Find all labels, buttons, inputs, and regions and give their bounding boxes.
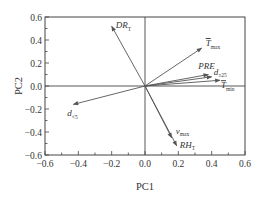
x-tick-label: 0.0 [139,159,151,169]
y-tick-label: −0.2 [25,105,42,115]
y-tick-label: 0.4 [30,36,42,46]
chart-svg: −0.6−0.4−0.20.00.20.40.6−0.6−0.4−0.20.00… [0,0,265,199]
vector-label: PRE [197,61,215,71]
x-tick-label: −0.6 [36,159,53,169]
vector-rh-t: RHT [145,86,196,151]
vector-label: Tmin [221,80,235,92]
vector-label: vmax [176,126,190,138]
x-tick-label: −0.4 [70,159,87,169]
vector-label: DRT [115,20,132,32]
y-tick-label: 0.6 [30,13,42,23]
y-axis-title: PC2 [13,77,24,95]
vector-label: d≥25 [214,67,227,79]
y-tick-label: 0.0 [30,82,42,92]
x-tick-label: 0.2 [172,159,184,169]
vector-label: d<5 [67,108,78,120]
x-tick-label: 0.4 [206,159,218,169]
pca-biplot-chart: −0.6−0.4−0.20.00.20.40.6−0.6−0.4−0.20.00… [0,0,265,199]
vector-label: Tmax [206,38,221,50]
vector-arrow [145,48,202,86]
y-tick-label: −0.4 [25,128,42,138]
x-axis-title: PC1 [136,181,154,192]
vector-dr-t: DRT [112,20,145,86]
vector-d-5: d<5 [67,86,145,120]
vector-arrow [73,86,145,104]
vector-label: RHT [179,140,196,152]
vector-arrow [112,26,145,86]
y-tick-label: 0.2 [30,59,42,69]
y-tick-label: −0.6 [25,151,42,161]
vector-arrow [145,86,177,146]
axis-ticks: −0.6−0.4−0.20.00.20.40.6−0.6−0.4−0.20.00… [25,13,251,170]
x-tick-label: −0.2 [103,159,120,169]
vector-pre: PRE [145,61,215,87]
vector-v-max: vmax [145,86,189,138]
x-tick-label: 0.6 [239,159,251,169]
